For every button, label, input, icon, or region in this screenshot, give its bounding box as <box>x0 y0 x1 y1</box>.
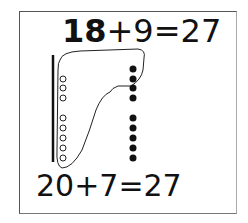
hollow-circles-group-1 <box>60 76 66 101</box>
filled-dots-group-1 <box>130 66 137 102</box>
hollow-circles-group-2 <box>60 115 66 161</box>
bottom-equation: 20+7=27 <box>36 168 182 203</box>
filled-dots-group-2 <box>130 115 137 162</box>
